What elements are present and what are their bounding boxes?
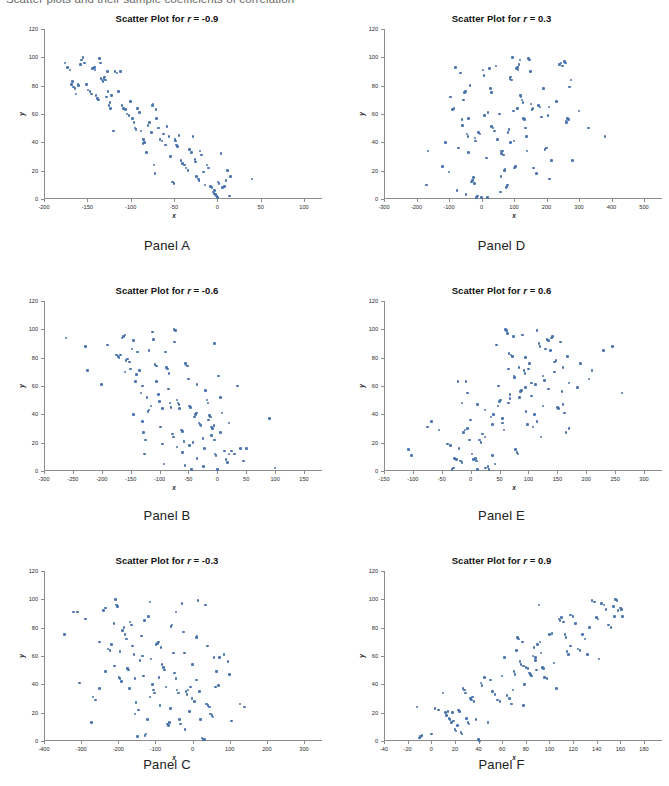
scatter-point bbox=[407, 448, 410, 451]
scatter-point bbox=[489, 679, 492, 682]
scatter-point bbox=[198, 179, 201, 182]
x-tick-label: 250 bbox=[610, 476, 619, 482]
scatter-point bbox=[242, 460, 245, 463]
scatter-point bbox=[508, 128, 511, 131]
y-tick-label: 100 bbox=[29, 54, 38, 60]
panel-c-title: Scatter Plot for r = -0.3 bbox=[0, 555, 334, 566]
scatter-point bbox=[530, 395, 533, 398]
x-tick-label: -300 bbox=[38, 476, 49, 482]
x-tick-mark bbox=[275, 471, 276, 474]
scatter-point bbox=[461, 461, 464, 464]
scatter-point bbox=[223, 653, 226, 656]
scatter-point bbox=[190, 468, 193, 471]
x-tick-label: -200 bbox=[411, 204, 422, 210]
scatter-point bbox=[563, 412, 566, 415]
scatter-point bbox=[536, 643, 539, 646]
scatter-point bbox=[226, 169, 229, 172]
panel-b-title: Scatter Plot for r = -0.6 bbox=[0, 285, 334, 296]
scatter-point bbox=[124, 633, 127, 636]
scatter-point bbox=[181, 430, 184, 433]
scatter-point bbox=[533, 646, 536, 649]
scatter-point bbox=[466, 392, 469, 395]
scatter-point bbox=[216, 196, 219, 199]
scatter-point bbox=[204, 184, 207, 187]
scatter-point bbox=[134, 713, 137, 716]
scatter-point bbox=[474, 137, 477, 140]
scatter-point bbox=[141, 420, 144, 423]
scatter-point bbox=[546, 677, 549, 680]
scatter-point bbox=[514, 165, 517, 168]
scatter-point bbox=[613, 615, 616, 618]
scatter-point bbox=[567, 653, 570, 656]
scatter-point bbox=[499, 700, 502, 703]
scatter-point bbox=[476, 403, 479, 406]
scatter-point bbox=[576, 386, 579, 389]
scatter-point bbox=[452, 720, 455, 723]
x-tick-label: -150 bbox=[378, 476, 389, 482]
scatter-point bbox=[510, 703, 513, 706]
scatter-point bbox=[520, 389, 523, 392]
scatter-point bbox=[560, 62, 563, 65]
scatter-point bbox=[76, 611, 79, 614]
panel-a-title-prefix: Scatter Plot for bbox=[116, 13, 188, 24]
scatter-point bbox=[434, 707, 437, 710]
scatter-point bbox=[206, 164, 209, 167]
scatter-point bbox=[127, 669, 130, 672]
scatter-point bbox=[474, 140, 477, 143]
x-tick-label: -200 bbox=[96, 476, 107, 482]
x-tick-label: -100 bbox=[150, 746, 161, 752]
y-tick-label: 120 bbox=[29, 26, 38, 32]
scatter-point bbox=[132, 339, 135, 342]
scatter-point bbox=[456, 189, 459, 192]
x-tick-mark bbox=[304, 199, 305, 202]
panel-a-x-axis bbox=[44, 198, 322, 199]
scatter-point bbox=[207, 402, 210, 405]
scatter-point bbox=[157, 127, 160, 130]
scatter-point bbox=[79, 63, 82, 66]
scatter-point bbox=[191, 663, 194, 666]
scatter-point bbox=[503, 656, 506, 659]
scatter-point bbox=[451, 711, 454, 714]
scatter-point bbox=[151, 683, 154, 686]
scatter-point bbox=[562, 366, 565, 369]
scatter-point bbox=[167, 388, 170, 391]
scatter-point bbox=[591, 369, 594, 372]
x-tick-mark bbox=[442, 471, 443, 474]
scatter-point bbox=[153, 692, 156, 695]
scatter-point bbox=[559, 341, 562, 344]
y-tick-label: 100 bbox=[369, 326, 378, 332]
scatter-point bbox=[421, 734, 424, 737]
scatter-point bbox=[143, 619, 146, 622]
scatter-point bbox=[584, 638, 587, 641]
x-tick-mark bbox=[87, 199, 88, 202]
x-tick-mark bbox=[188, 471, 189, 474]
scatter-point bbox=[189, 406, 192, 409]
scatter-point bbox=[579, 649, 582, 652]
scatter-point bbox=[181, 602, 184, 605]
scatter-plot-grid: Scatter Plot for r = -0.9 y x 0204060801… bbox=[0, 7, 669, 786]
scatter-point bbox=[620, 608, 623, 611]
x-tick-mark bbox=[573, 741, 574, 744]
y-tick-label: 120 bbox=[369, 26, 378, 32]
scatter-point bbox=[174, 140, 177, 143]
scatter-point bbox=[161, 140, 164, 143]
scatter-point bbox=[188, 710, 191, 713]
panel-d-x-axis-title: x bbox=[384, 212, 644, 219]
panel-b-y-axis-title: y bbox=[18, 384, 25, 388]
panel-e-title: Scatter Plot for r = 0.6 bbox=[334, 285, 669, 296]
panel-a-x-axis-title: x bbox=[44, 212, 304, 219]
panel-e-title-prefix: Scatter Plot for bbox=[452, 285, 524, 296]
scatter-point bbox=[578, 110, 581, 113]
scatter-point bbox=[567, 118, 570, 121]
scatter-point bbox=[467, 117, 470, 120]
x-tick-mark bbox=[118, 741, 119, 744]
scatter-point bbox=[155, 108, 158, 111]
scatter-point bbox=[85, 83, 88, 86]
x-tick-label: -300 bbox=[76, 746, 87, 752]
x-tick-label: 50 bbox=[496, 476, 502, 482]
scatter-point bbox=[176, 689, 179, 692]
scatter-point bbox=[213, 424, 216, 427]
scatter-point bbox=[500, 175, 503, 178]
x-tick-mark bbox=[131, 471, 132, 474]
scatter-point bbox=[197, 599, 200, 602]
